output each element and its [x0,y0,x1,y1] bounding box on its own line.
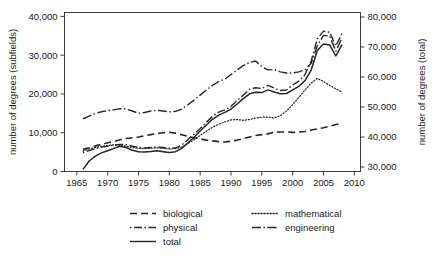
y-tick-label-left: 20,000 [28,88,57,99]
y-tick-label-left: 30,000 [28,50,57,61]
x-tick-label: 1965 [66,177,87,188]
plot-frame [65,13,361,172]
y-axis-left-ticks [61,16,65,171]
x-tick-label: 1970 [97,177,118,188]
legend-label-biological: biological [163,208,203,219]
x-tick-label: 1985 [190,177,211,188]
x-axis-labels: 1965197019751980198519901995200020052010 [66,177,365,188]
y-axis-right-labels: 30,00040,00050,00060,00070,00080,000 [368,11,397,172]
legend-label-total: total [163,236,181,247]
y-axis-left-labels: 010,00020,00030,00040,000 [28,11,57,177]
x-tick-label: 2005 [313,177,334,188]
y-tick-label-right: 70,000 [368,41,397,52]
y-axis-left-title: number of degrees (subfields) [7,29,18,155]
x-tick-label: 1995 [251,177,272,188]
y-tick-label-right: 60,000 [368,71,397,82]
y-axis-right-ticks [361,17,365,167]
legend-label-mathematical: mathematical [285,208,342,219]
y-tick-label-right: 80,000 [368,11,397,22]
x-axis-ticks [77,172,355,176]
series-line-engineering [83,35,342,118]
chart-legend: biologicalmathematicalphysicalengineerin… [130,208,342,247]
x-tick-label: 1980 [159,177,180,188]
y-tick-label-left: 10,000 [28,127,57,138]
x-tick-label: 2000 [282,177,303,188]
figure-container: 010,00020,00030,00040,000 number of degr… [0,0,437,260]
y-tick-label-right: 50,000 [368,101,397,112]
y-tick-label-left: 40,000 [28,11,57,22]
series-group [83,31,342,169]
y-tick-label-right: 30,000 [368,161,397,172]
line-chart: 010,00020,00030,00040,000 number of degr… [0,0,437,260]
series-line-total [83,44,342,169]
x-tick-label: 2010 [344,177,365,188]
y-axis-right-title: number of degrees (total) [416,39,427,146]
legend-label-engineering: engineering [285,222,335,233]
y-tick-label-left: 0 [52,166,57,177]
x-tick-label: 1975 [128,177,149,188]
x-tick-label: 1990 [220,177,241,188]
legend-label-physical: physical [163,222,197,233]
y-tick-label-right: 40,000 [368,131,397,142]
